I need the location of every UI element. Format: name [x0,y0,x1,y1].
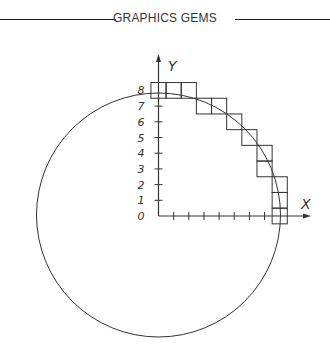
pixel-cell [257,145,272,161]
y-tick-label: 6 [138,116,145,129]
y-tick-label: 2 [138,179,145,192]
y-tick-label: 3 [138,163,145,176]
pixel-cell [227,114,242,130]
circle-raster-diagram: 876543210YX [0,0,330,364]
x-axis-label: X [300,196,311,212]
y-tick-label: 7 [138,100,145,113]
y-tick-label: 8 [138,84,145,97]
pixel-cells [151,83,287,224]
pixel-cell [257,161,272,177]
y-axis-arrow-icon [156,54,161,62]
pixel-cell [196,98,211,114]
y-tick-label: 5 [138,132,145,145]
y-tick-label: 0 [138,210,145,223]
pixel-cell [242,130,257,146]
y-tick-label: 4 [138,147,145,160]
pixel-cell [166,83,181,99]
y-tick-label: 1 [138,194,145,207]
pixel-cell [272,177,287,193]
x-axis-arrow-icon [303,214,311,219]
y-axis-label: Y [168,58,178,74]
